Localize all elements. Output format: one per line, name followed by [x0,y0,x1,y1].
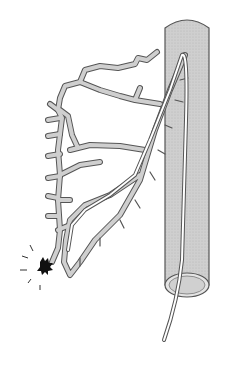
illustration-canvas [0,0,238,369]
bleeding-site [20,245,53,290]
vessel-catheter-illustration [0,0,238,369]
